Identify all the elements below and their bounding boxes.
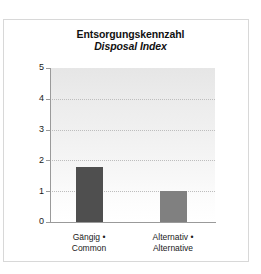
x-tick-label-alternative-line1: Alternativ •	[128, 232, 218, 243]
chart-title-block: Entsorgungskennzahl Disposal Index	[0, 28, 261, 53]
y-tick-1: 1	[18, 187, 44, 197]
y-tick-4: 4	[18, 94, 44, 104]
y-tick-3: 3	[18, 125, 44, 135]
plot-area	[50, 68, 215, 222]
y-tick-label-2: 2	[22, 156, 44, 165]
x-tick-label-common-line1: Gängig •	[44, 232, 134, 243]
y-tick-2: 2	[18, 156, 44, 166]
y-axis-line	[50, 68, 51, 223]
y-tick-label-3: 3	[22, 125, 44, 134]
y-tick-mark-0	[46, 222, 50, 223]
y-tick-label-0: 0	[22, 217, 44, 226]
gridline-2	[50, 160, 215, 161]
y-tick-mark-1	[46, 191, 50, 192]
gridline-3	[50, 130, 215, 131]
chart-figure: Entsorgungskennzahl Disposal Index 5 4 3…	[0, 0, 261, 274]
gridline-4	[50, 99, 215, 100]
x-tick-label-common-line2: Common	[44, 243, 134, 254]
y-tick-mark-4	[46, 99, 50, 100]
chart-title: Entsorgungskennzahl	[0, 28, 261, 40]
bar-common	[76, 167, 103, 222]
gridline-1	[50, 191, 215, 192]
y-tick-mark-2	[46, 160, 50, 161]
y-tick-label-5: 5	[22, 63, 44, 72]
y-tick-label-4: 4	[22, 94, 44, 103]
x-tick-label-alternative-line2: Alternative	[128, 243, 218, 254]
y-tick-mark-3	[46, 130, 50, 131]
y-tick-0: 0	[18, 217, 44, 227]
y-tick-5: 5	[18, 63, 44, 73]
x-axis-line	[50, 222, 216, 223]
bar-alternative	[160, 191, 187, 222]
y-tick-mark-5	[46, 68, 50, 69]
y-tick-label-1: 1	[22, 187, 44, 196]
chart-subtitle: Disposal Index	[0, 40, 261, 52]
x-tick-label-common: Gängig • Common	[44, 232, 134, 254]
x-tick-label-alternative: Alternativ • Alternative	[128, 232, 218, 254]
